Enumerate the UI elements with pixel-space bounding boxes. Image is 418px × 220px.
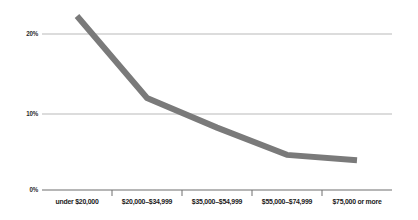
x-tick-label-0: under $20,000: [45, 196, 109, 216]
x-axis: under $20,000 $20,000–$34,999 $35,000–$5…: [42, 196, 392, 216]
x-tick-label-1: $20,000–$34,999: [115, 196, 179, 216]
x-tick-label-3: $55,000–$74,999: [255, 196, 319, 216]
y-tick-label-0: 0%: [6, 186, 38, 194]
gridlines: [42, 34, 392, 190]
chart-canvas: [0, 0, 418, 220]
y-axis: 20% 10% 0%: [0, 0, 38, 220]
y-tick-label-10: 10%: [6, 110, 38, 118]
x-tick-label-2: $35,000–$54,999: [185, 196, 249, 216]
line-chart: 20% 10% 0% under $20,000 $20,000–$34,999…: [0, 0, 418, 220]
data-series-line: [77, 16, 357, 160]
x-tick-label-4: $75,000 or more: [325, 196, 389, 216]
y-tick-label-20: 20%: [6, 30, 38, 38]
